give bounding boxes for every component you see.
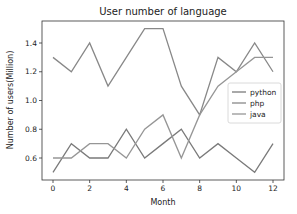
x-tick-label: 10 bbox=[232, 184, 242, 193]
legend-label-python: python bbox=[250, 88, 276, 97]
y-tick-label: 1.2 bbox=[25, 67, 37, 76]
x-tick-label: 0 bbox=[51, 184, 56, 193]
x-tick-label: 12 bbox=[268, 184, 278, 193]
x-tick-label: 4 bbox=[124, 184, 129, 193]
legend-label-java: java bbox=[249, 110, 266, 119]
y-tick-label: 1.0 bbox=[25, 96, 37, 105]
line-chart: User number of language Month Number of … bbox=[0, 0, 297, 214]
x-axis-label: Month bbox=[150, 198, 175, 207]
y-tick-label: 0.6 bbox=[25, 154, 37, 163]
series-line-python bbox=[53, 129, 273, 172]
chart-title: User number of language bbox=[99, 6, 227, 17]
y-tick-label: 0.8 bbox=[25, 125, 37, 134]
x-tick-label: 6 bbox=[161, 184, 166, 193]
chart-canvas: User number of language Month Number of … bbox=[0, 0, 297, 214]
legend: pythonphpjava bbox=[228, 83, 281, 123]
x-tick-label: 2 bbox=[87, 184, 92, 193]
x-tick-label: 8 bbox=[197, 184, 202, 193]
legend-label-php: php bbox=[250, 99, 265, 108]
y-axis-label: Number of users(Million) bbox=[6, 51, 15, 150]
y-tick-label: 1.4 bbox=[25, 39, 37, 48]
